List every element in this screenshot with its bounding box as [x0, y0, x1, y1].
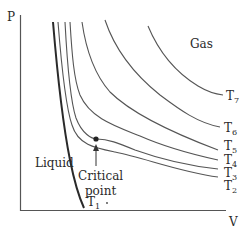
- pv-diagram: [0, 0, 249, 232]
- liquid-region-label: Liquid: [35, 157, 74, 169]
- isotherm-t6-label: T6: [224, 122, 237, 137]
- x-axis-label: V: [229, 216, 238, 228]
- critical-point-marker: [93, 136, 98, 141]
- isotherm-t1-label: T1: [87, 196, 100, 211]
- critical-point-label: Critical point: [78, 169, 123, 199]
- isotherm-t3-label: T3: [224, 167, 237, 182]
- stray-dot: [106, 202, 108, 204]
- gas-region-label: Gas: [190, 38, 213, 50]
- isotherm-t7-label: T7: [226, 90, 239, 105]
- isotherm-t5-label: T5: [224, 140, 237, 155]
- critical-point-label-line2: point: [78, 184, 123, 199]
- isotherm-t2-label: T2: [224, 180, 237, 195]
- isotherm-t4-label: T4: [224, 154, 237, 169]
- critical-point-label-line1: Critical: [78, 169, 123, 184]
- y-axis-label: P: [7, 11, 15, 23]
